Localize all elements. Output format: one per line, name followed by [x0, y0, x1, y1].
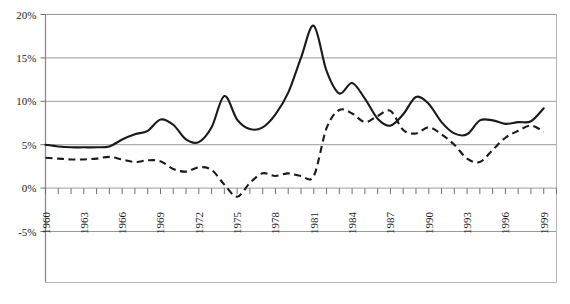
y-axis-tick-label: 10%	[16, 95, 36, 107]
x-axis-tick-label: 1996	[499, 212, 511, 235]
x-axis-tick-label: 1966	[116, 212, 128, 235]
x-axis-tick-label: 1969	[154, 212, 166, 235]
x-axis-tick-label: 1987	[384, 212, 396, 235]
x-axis-tick-label: 1978	[269, 212, 281, 235]
y-axis-tick-label: 0%	[22, 182, 37, 194]
chart-canvas: -5%0%5%10%15%20% 19601963196619691972197…	[0, 0, 570, 304]
x-axis-tick-label: 1975	[231, 212, 243, 235]
x-axis-tick-label: 1972	[193, 212, 205, 234]
y-axis-tick-label: 5%	[22, 139, 37, 151]
x-axis-tick-label: 1999	[538, 212, 550, 235]
x-axis-tick-label: 1993	[461, 212, 473, 235]
y-axis-tick-label: 15%	[16, 52, 36, 64]
x-axis-tick-label: 1984	[346, 212, 358, 235]
y-axis-tick-label: -5%	[18, 226, 36, 238]
line-chart: -5%0%5%10%15%20% 19601963196619691972197…	[0, 0, 570, 304]
chart-background	[0, 0, 570, 304]
x-axis-tick-label: 1960	[40, 212, 52, 235]
x-axis-tick-label: 1981	[308, 212, 320, 234]
y-axis-tick-label: 20%	[16, 9, 36, 21]
x-axis-tick-label: 1963	[78, 212, 90, 235]
x-axis-tick-label: 1990	[423, 212, 435, 235]
